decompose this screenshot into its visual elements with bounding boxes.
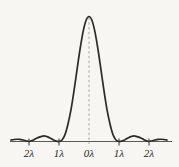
- axis-label-zero-lambda: 0λ: [84, 148, 94, 159]
- axis-label-minus-2lambda: 2λ: [24, 148, 34, 159]
- intensity-curve: [11, 17, 167, 142]
- intensity-plot: [0, 0, 179, 167]
- axis-label-plus-1lambda: 1λ: [114, 148, 124, 159]
- diffraction-pattern-figure: 2λ 1λ 0λ 1λ 2λ: [0, 0, 179, 167]
- axis-label-minus-1lambda: 1λ: [54, 148, 64, 159]
- axis-label-plus-2lambda: 2λ: [144, 148, 154, 159]
